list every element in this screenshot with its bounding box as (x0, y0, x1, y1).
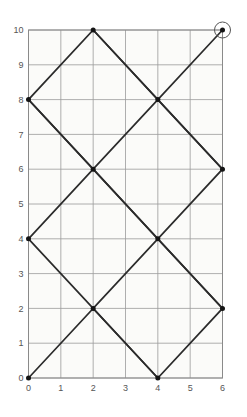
x-tick-label: 5 (188, 383, 193, 393)
y-tick-label: 7 (18, 130, 23, 140)
y-tick-label: 4 (18, 234, 23, 244)
x-tick-label: 2 (91, 383, 96, 393)
x-tick-label: 1 (58, 383, 63, 393)
y-tick-label: 1 (18, 338, 23, 348)
y-tick-label: 8 (18, 95, 23, 105)
x-tick-label: 4 (155, 383, 160, 393)
y-tick-label: 2 (18, 304, 23, 314)
lattice-reflection-plot: 012345678910 0123456 (0, 0, 247, 417)
y-tick-label: 5 (18, 199, 23, 209)
y-tick-label: 6 (18, 164, 23, 174)
y-tick-label: 3 (18, 269, 23, 279)
y-tick-label: 9 (18, 60, 23, 70)
x-tick-label: 0 (26, 383, 31, 393)
x-tick-label: 3 (123, 383, 128, 393)
chart-container: 012345678910 0123456 (0, 0, 247, 417)
x-tick-label: 6 (220, 383, 225, 393)
y-tick-label: 0 (18, 373, 23, 383)
y-tick-label: 10 (13, 25, 23, 35)
